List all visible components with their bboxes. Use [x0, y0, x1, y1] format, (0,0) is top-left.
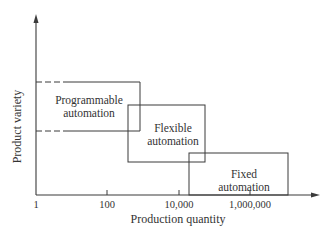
x-tick-label-1: 1	[33, 199, 38, 210]
flexible-label-line2: automation	[141, 135, 205, 148]
programmable-label-line1: Programmable	[40, 94, 138, 107]
fixed-label-line1: Fixed	[200, 168, 288, 181]
x-axis-label: Production quantity	[118, 213, 238, 226]
programmable-label: Programmable automation	[40, 94, 138, 120]
y-axis-label: Product variety	[11, 82, 24, 172]
fixed-label: Fixed automation	[200, 168, 288, 194]
x-tick-label-10000: 10,000	[165, 199, 194, 210]
flexible-label-line1: Flexible	[141, 122, 205, 135]
x-axis-arrow-icon	[311, 193, 320, 198]
x-tick-label-100: 100	[99, 199, 115, 210]
fixed-label-line2: automation	[200, 181, 288, 194]
flexible-label: Flexible automation	[141, 122, 205, 148]
programmable-label-line2: automation	[40, 107, 138, 120]
y-axis-arrow-icon	[34, 14, 39, 23]
x-tick-label-1000000: 1,000,000	[229, 199, 271, 210]
